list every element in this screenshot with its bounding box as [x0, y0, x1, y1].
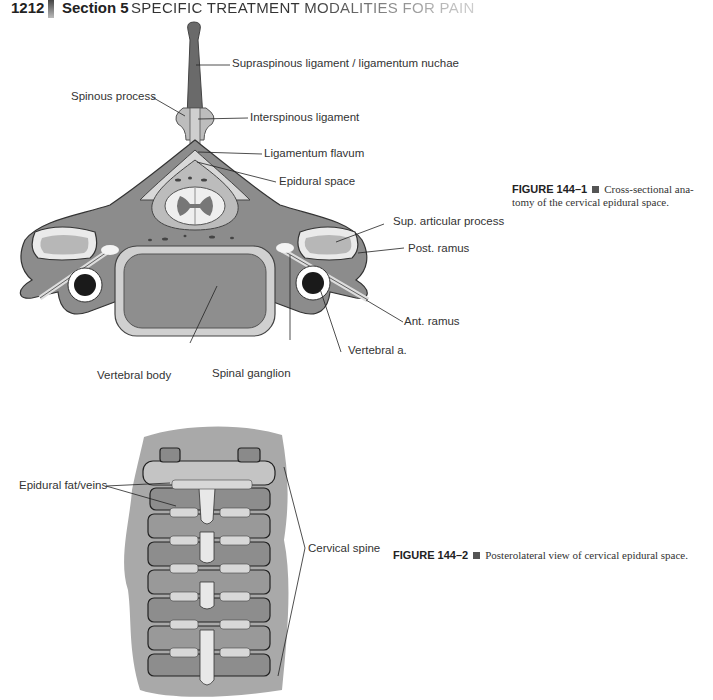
label-spinal-ganglion: Spinal ganglion — [212, 367, 291, 379]
label-interspinous-ligament: Interspinous ligament — [250, 111, 359, 123]
label-sup-articular-process: Sup. articular process — [393, 215, 504, 227]
label-epidural-space: Epidural space — [279, 175, 355, 187]
label-epidural-fat-veins: Epidural fat/veins — [19, 479, 107, 491]
label-supraspinous-ligament: Supraspinous ligament / ligamentum nucha… — [232, 57, 459, 69]
label-spinous-process: Spinous process — [71, 90, 156, 102]
label-ant-ramus: Ant. ramus — [404, 315, 460, 327]
label-cervical-spine: Cervical spine — [308, 542, 380, 554]
supraspinous-ligament — [187, 22, 203, 118]
vertebral-body — [124, 254, 266, 328]
caption-text: Posterolateral view of cervical epidural… — [485, 549, 688, 561]
articular-process-right — [298, 227, 358, 260]
figure-144-1-caption: FIGURE 144–1Cross-sectional ana- tomy of… — [512, 183, 712, 209]
figure-144-2-caption: FIGURE 144–2Posterolateral view of cervi… — [393, 549, 713, 562]
caption-text-2: tomy of the cervical epidural space. — [512, 196, 669, 208]
figure-number: FIGURE 144–2 — [393, 549, 468, 561]
label-vertebral-body: Vertebral body — [97, 369, 171, 381]
figure-number: FIGURE 144–1 — [512, 183, 587, 195]
caption-text-1: Cross-sectional ana- — [604, 183, 694, 195]
label-ligamentum-flavum: Ligamentum flavum — [264, 147, 364, 159]
vertebral-artery-left — [68, 268, 102, 302]
articular-process-left — [32, 227, 97, 260]
label-post-ramus: Post. ramus — [408, 242, 469, 254]
spinous-processes-fig2 — [199, 488, 215, 685]
label-vertebral-artery: Vertebral a. — [348, 344, 407, 356]
caption-separator — [592, 186, 599, 193]
vertebral-artery-right — [296, 266, 330, 300]
caption-separator — [473, 552, 480, 559]
